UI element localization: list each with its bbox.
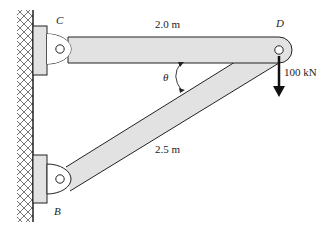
member-bd (66, 62, 279, 191)
label-length-bd: 2.5 m (155, 143, 181, 155)
support-c (33, 26, 71, 75)
label-angle-theta: θ (163, 71, 169, 83)
pin-c-icon (56, 45, 64, 53)
member-cd (68, 37, 292, 63)
label-point-c: C (56, 14, 64, 26)
angle-theta-arc (176, 62, 185, 93)
pin-b-icon (56, 175, 64, 183)
pin-d-icon (275, 46, 283, 54)
label-length-cd: 2.0 m (155, 18, 181, 30)
wall (17, 10, 33, 222)
support-b (33, 155, 71, 203)
label-point-d: D (275, 17, 284, 29)
truss-diagram: C D B 2.0 m 2.5 m θ 100 kN (0, 0, 329, 234)
label-point-b: B (54, 205, 61, 217)
label-load: 100 kN (284, 66, 317, 78)
